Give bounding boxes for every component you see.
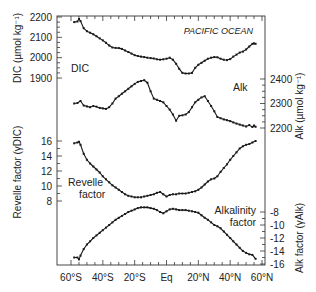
revelle-factor-point xyxy=(255,140,257,142)
revelle-factor-point xyxy=(92,166,94,168)
alk-series xyxy=(73,79,256,128)
alk-point xyxy=(143,79,145,81)
alk-point xyxy=(181,114,183,116)
alkalinity-factor-point xyxy=(181,209,183,211)
alk-point xyxy=(137,81,139,83)
revelle-factor-point xyxy=(178,193,180,195)
alkalinity-factor-point xyxy=(201,214,203,216)
alkalinity-factor-point xyxy=(111,221,113,223)
dic-point xyxy=(169,57,171,59)
alkalinity-factor-point xyxy=(146,206,148,208)
revelle-factor-point xyxy=(131,196,133,198)
revelle-factor-point xyxy=(159,191,161,193)
dic-point xyxy=(188,73,190,75)
alk-point xyxy=(239,124,241,126)
alkalinity-factor-point xyxy=(143,206,145,208)
alkalinity-factor-point xyxy=(76,257,78,259)
dic-point xyxy=(210,57,212,59)
dic-point xyxy=(124,50,126,52)
alkalinity-factor-point xyxy=(83,248,85,250)
revelle-factor-point xyxy=(121,191,123,193)
alkalinity-factor-point xyxy=(134,208,136,210)
dic-point xyxy=(175,63,177,65)
alkalinity-factor-point xyxy=(86,244,88,246)
alk-point xyxy=(105,108,107,110)
alk-point xyxy=(229,120,231,122)
dic-point xyxy=(76,21,78,23)
alk-point xyxy=(124,90,126,92)
dic-point xyxy=(162,58,164,60)
dic-point xyxy=(226,59,228,61)
revelle-factor-point xyxy=(236,151,238,153)
alk-point xyxy=(140,80,142,82)
revelle-factor-point xyxy=(223,167,225,169)
revelle-factor-point xyxy=(207,181,209,183)
revelle-factor-point xyxy=(89,163,91,165)
alkalinity-factor-point xyxy=(204,217,206,219)
y-tick-label: 16 xyxy=(41,136,53,147)
alkalinity-factor-point xyxy=(178,209,180,211)
alkalinity-factor-point xyxy=(140,206,142,208)
dic-point xyxy=(185,73,187,75)
alk-point xyxy=(102,107,104,109)
dic-point xyxy=(80,20,82,22)
alkalinity-factor-point xyxy=(80,255,82,257)
alk-point xyxy=(255,126,257,128)
dic-point xyxy=(150,57,152,59)
dic-point xyxy=(216,56,218,58)
x-tick-label: 60°N xyxy=(251,272,273,283)
dic-point xyxy=(99,37,101,39)
alk-point xyxy=(213,110,215,112)
revelle-factor-point xyxy=(73,142,75,144)
alk-point xyxy=(166,105,168,107)
y-tick-label: -8 xyxy=(270,207,279,218)
revelle-factor-point xyxy=(86,159,88,161)
revelle-factor-point xyxy=(96,169,98,171)
revelle-series-label-line1: Revelle xyxy=(68,176,103,188)
revelle-factor-point xyxy=(204,184,206,186)
revelle-factor-point xyxy=(140,196,142,198)
dic-point xyxy=(242,51,244,53)
dic-point xyxy=(83,27,85,29)
alkalinity-factor-point xyxy=(220,227,222,229)
alkalinity-factor-point xyxy=(96,234,98,236)
alkalinity-factor-point xyxy=(150,207,152,209)
alkalinity-factor-point xyxy=(191,210,193,212)
dic-point xyxy=(213,56,215,58)
dic-point xyxy=(236,54,238,56)
alkfactor-axis-title: Alk factor (γAlk) xyxy=(294,203,305,273)
revelle-factor-point xyxy=(213,178,215,180)
revelle-factor-point xyxy=(172,193,174,195)
revelle-factor-point xyxy=(146,195,148,197)
revelle-factor-point xyxy=(210,178,212,180)
alkalinity-factor-point xyxy=(185,209,187,211)
dic-point xyxy=(115,47,117,49)
alk-point xyxy=(223,118,225,120)
y-tick-label: 2200 xyxy=(270,123,293,134)
alk-point xyxy=(131,85,133,87)
alk-point xyxy=(191,106,193,108)
alkalinity-factor-point xyxy=(194,211,196,213)
revelle-factor-point xyxy=(201,187,203,189)
x-tick-label: 40°N xyxy=(219,272,241,283)
alk-point xyxy=(96,106,98,108)
alkalinity-factor-point xyxy=(105,227,107,229)
alkalinity-factor-point xyxy=(226,234,228,236)
dic-point xyxy=(197,64,199,66)
alkalinity-factor-point xyxy=(115,219,117,221)
dic-point xyxy=(92,33,94,35)
alk-point xyxy=(89,106,91,108)
chart: 60°S40°S20°SEq20°N40°N60°N 1900200021002… xyxy=(0,0,316,292)
revelle-factor-point xyxy=(118,189,120,191)
revelle-factor-point xyxy=(134,196,136,198)
dic-point xyxy=(159,59,161,61)
alk-point xyxy=(92,105,94,107)
alkalinity-factor-point xyxy=(127,211,129,213)
alk-point xyxy=(220,117,222,119)
alk-point xyxy=(169,109,171,111)
alkalinity-factor-point xyxy=(102,229,104,231)
dic-point xyxy=(89,32,91,34)
revelle-factor-point xyxy=(181,193,183,195)
alk-point xyxy=(80,100,82,102)
revelle-factor-point xyxy=(175,193,177,195)
